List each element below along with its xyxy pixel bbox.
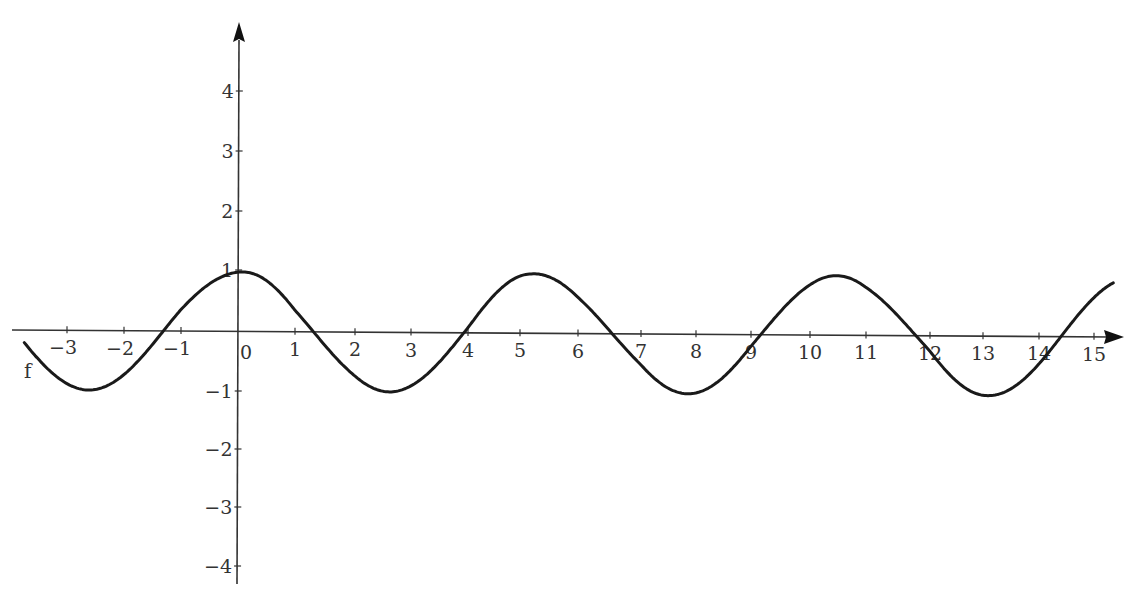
function-label: f	[24, 359, 33, 383]
x-tick-label: 5	[514, 339, 526, 361]
x-tick-label: 0	[240, 341, 252, 363]
y-tick-label: −1	[205, 380, 233, 402]
x-tick-label: 2	[349, 338, 361, 360]
x-tick-label: 3	[405, 339, 417, 361]
x-tick-label: 1	[289, 338, 301, 360]
y-tick-label: −3	[204, 496, 232, 518]
x-tick-label: 6	[572, 340, 584, 362]
x-tick-label: 11	[854, 341, 878, 363]
x-axis-ticks: −3−2−10123456789101112131415	[49, 326, 1106, 364]
x-tick-label: 13	[971, 342, 995, 364]
y-tick-label: 2	[221, 200, 233, 222]
x-tick-label: 10	[798, 341, 822, 363]
x-tick-label: −3	[49, 336, 77, 358]
x-tick-label: 4	[462, 339, 474, 361]
function-plot: −3−2−10123456789101112131415 −4−3−2−1123…	[0, 0, 1126, 599]
y-tick-label: 3	[221, 140, 233, 162]
y-tick-label: −4	[204, 555, 232, 577]
x-tick-label: 15	[1082, 343, 1106, 365]
y-axis	[233, 22, 245, 584]
y-tick-label: 4	[222, 80, 234, 102]
x-tick-label: −1	[163, 337, 191, 359]
x-tick-label: −2	[106, 337, 134, 359]
y-tick-label: −2	[204, 438, 232, 460]
x-tick-label: 8	[690, 340, 702, 362]
